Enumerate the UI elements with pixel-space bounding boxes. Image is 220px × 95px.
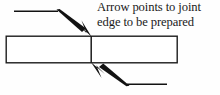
annotation-line-2: edge to be prepared — [97, 15, 219, 30]
annotation-line-1: Arrow points to joint — [97, 0, 219, 15]
annotation-text-block: Arrow points to joint edge to be prepare… — [97, 0, 219, 32]
lower-arrow-shaft — [99, 64, 130, 87]
welding-joint-diagram: Arrow points to joint edge to be prepare… — [0, 0, 220, 95]
